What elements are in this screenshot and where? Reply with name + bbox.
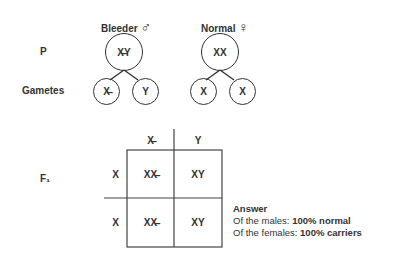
male-gamete-2: Y <box>132 78 159 105</box>
answer-block: Answer Of the males: 100% normal Of the … <box>233 203 362 239</box>
punnett-col-header-2: Y <box>174 132 222 148</box>
row-label-p: P <box>40 46 47 57</box>
female-symbol-icon: ♀ <box>238 19 249 35</box>
male-gamete-1: X̶ <box>93 78 120 105</box>
row-label-f1: F₁ <box>40 173 50 184</box>
female-parent-genotype: XX <box>201 33 239 71</box>
answer-title: Answer <box>233 203 362 215</box>
answer-females: Of the females: 100% carriers <box>233 227 362 239</box>
female-gamete-2: X <box>229 78 256 105</box>
punnett-cell-2-1: XX̶ <box>127 198 174 247</box>
punnett-row-header-1: X <box>104 150 127 198</box>
female-gamete-1: X <box>190 78 217 105</box>
male-parent-genotype: X̶Y <box>105 33 143 71</box>
punnett-cell-1-2: XY <box>174 150 222 198</box>
punnett-cell-2-2: XY <box>174 198 222 247</box>
punnett-cell-1-1: XX̶ <box>127 150 174 198</box>
row-label-gametes: Gametes <box>22 85 64 96</box>
punnett-row-header-2: X <box>104 198 127 247</box>
answer-males: Of the males: 100% normal <box>233 215 362 227</box>
punnett-col-header-1: X̶ <box>127 132 174 148</box>
female-parent-label: Normal ♀ <box>201 19 249 35</box>
male-symbol-icon: ♂ <box>140 19 151 35</box>
